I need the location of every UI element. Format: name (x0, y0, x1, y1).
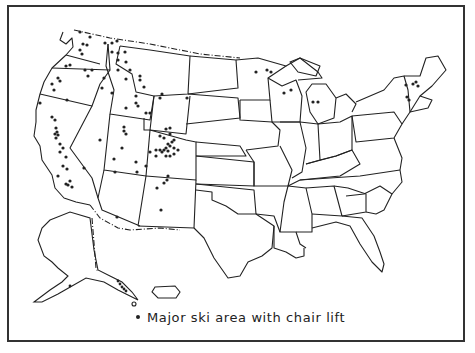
state-outlines (34, 30, 446, 278)
us-ski-area-map (0, 0, 475, 353)
ski-area-dot-icon (136, 315, 140, 319)
us-west-coast (34, 32, 90, 205)
mexico-border (90, 205, 180, 230)
alaska-outline (34, 212, 180, 306)
legend-label: Major ski area with chair lift (147, 310, 345, 325)
map-legend: Major ski area with chair lift (136, 310, 345, 325)
canada-border (74, 30, 240, 58)
